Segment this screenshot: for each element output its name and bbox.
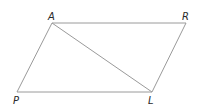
parallelogram-diagram: A R P L [0, 0, 200, 110]
diagram-canvas: A R P L [0, 0, 200, 110]
vertex-label-A: A [47, 11, 55, 22]
vertex-label-L: L [148, 95, 154, 106]
edge-PA [17, 23, 52, 92]
diagonal-AL [52, 23, 152, 92]
vertex-label-R: R [182, 11, 189, 22]
vertex-label-P: P [13, 95, 20, 106]
edge-RL [152, 23, 186, 92]
